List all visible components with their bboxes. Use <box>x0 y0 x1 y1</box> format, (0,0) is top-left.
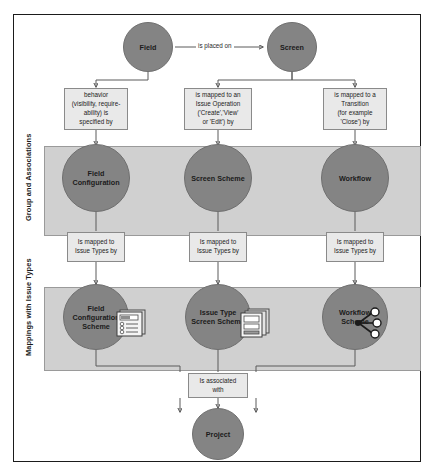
node-field-configuration[interactable]: Field Configuration <box>62 144 130 212</box>
node-screen-scheme[interactable]: Screen Scheme <box>184 144 252 212</box>
band-label-group-and-associations: Group and Associations <box>24 134 33 221</box>
relation-box-issue-types-2: Is mapped to Issue Types by <box>189 232 247 262</box>
relation-box-issue-types-1: Is mapped to Issue Types by <box>67 232 125 262</box>
relation-box-issue-types-3: Is mapped to Issue Types by <box>326 232 384 262</box>
relation-box-is-associated-with: Is associated with <box>188 373 248 398</box>
form-document-icon <box>113 308 147 344</box>
edge-label-is-placed-on: is placed on <box>196 42 234 49</box>
node-workflow[interactable]: Workflow <box>321 144 389 212</box>
band-label-mappings-with-issue-types: Mappings with Issue Types <box>24 258 33 356</box>
node-field[interactable]: Field <box>123 22 173 72</box>
node-project[interactable]: Project <box>192 408 244 460</box>
relation-box-behavior: behavior (visibility, require- ability) … <box>64 88 128 130</box>
node-screen[interactable]: Screen <box>267 22 317 72</box>
workflow-graph-icon <box>352 306 388 344</box>
relation-box-transition: is mapped to a Transition (for example '… <box>323 88 387 130</box>
stacked-window-icon <box>238 308 272 344</box>
relation-box-issue-operation: is mapped to an Issue Operation ('Create… <box>184 88 252 130</box>
